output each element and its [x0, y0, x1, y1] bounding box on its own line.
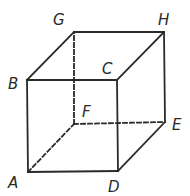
edge-ab	[27, 80, 28, 172]
edge-ed	[118, 122, 165, 171]
edge-da	[28, 171, 118, 172]
vertex-label-h: H	[158, 13, 169, 28]
vertex-label-g: G	[53, 13, 65, 28]
edge-bg	[27, 32, 74, 80]
hidden-edge-fe	[74, 122, 165, 124]
vertex-label-c: C	[102, 62, 112, 77]
cube-diagram: A B C D E F G H	[0, 0, 190, 196]
edge-cd	[117, 80, 118, 171]
vertex-label-f: F	[82, 105, 91, 120]
edge-he	[164, 32, 165, 122]
vertex-label-b: B	[8, 77, 18, 92]
vertex-label-e: E	[172, 118, 181, 133]
cube-drawing	[0, 0, 190, 196]
vertex-label-a: A	[8, 176, 18, 191]
vertex-label-d: D	[108, 180, 120, 195]
edge-hc	[117, 32, 164, 80]
hidden-edge-af	[28, 124, 74, 172]
